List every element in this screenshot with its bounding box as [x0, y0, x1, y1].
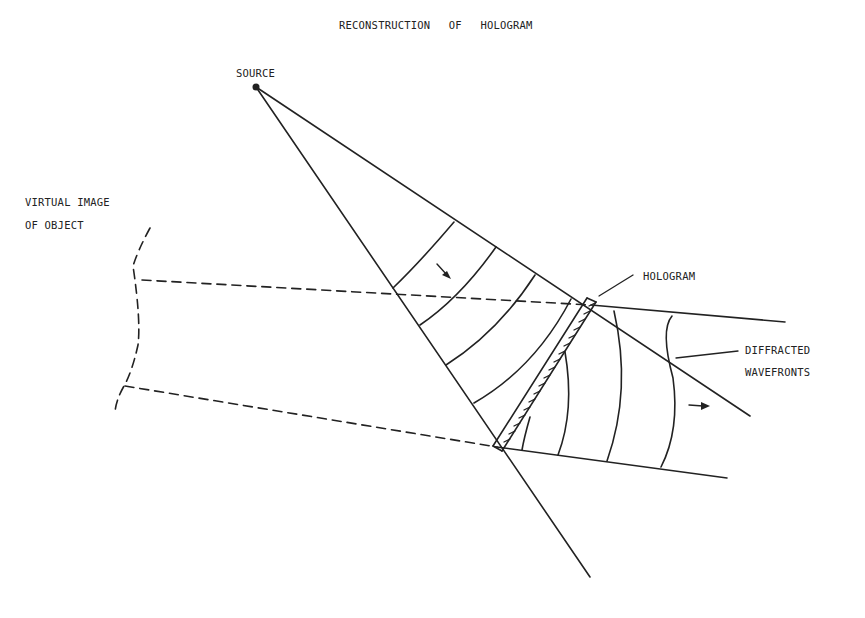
- diffracted-beam-upper-edge: [591, 305, 785, 322]
- virtual-image-label-line2: OF OBJECT: [25, 220, 84, 231]
- virtual-image-curve: [115, 228, 150, 412]
- diffracted-wavefronts: [522, 311, 675, 467]
- diffracted-wavefronts-label-line1: DIFFRACTED: [745, 345, 810, 356]
- diagram-title: RECONSTRUCTION OF HOLOGRAM: [339, 20, 533, 31]
- incident-direction-arrow-icon: [437, 264, 451, 279]
- diffracted-direction-arrow-icon: [689, 402, 710, 410]
- hologram-leader-line: [599, 275, 633, 296]
- hologram-label: HOLOGRAM: [643, 271, 695, 282]
- diffracted-wavefronts-label-line2: WAVEFRONTS: [745, 367, 810, 378]
- diagram-drawing: [0, 0, 865, 618]
- hologram-reconstruction-diagram: RECONSTRUCTION OF HOLOGRAM SOURCE VIRTUA…: [0, 0, 865, 618]
- incident-wavefronts: [393, 222, 571, 403]
- hologram-plate: [493, 298, 596, 451]
- incident-ray-lower: [256, 87, 590, 577]
- diffracted-beam-lower-edge: [497, 447, 727, 478]
- virtual-image-label-line1: VIRTUAL IMAGE: [25, 197, 110, 208]
- diffracted-leader-line: [676, 351, 738, 358]
- source-label: SOURCE: [236, 68, 275, 79]
- incident-ray-upper: [256, 87, 750, 416]
